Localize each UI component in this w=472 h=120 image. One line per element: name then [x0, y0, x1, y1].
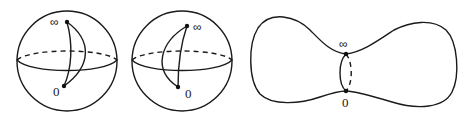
infinity-point [185, 24, 189, 28]
curve-a [178, 26, 187, 87]
sphere-outline [132, 11, 232, 111]
infinity-point [344, 52, 348, 56]
infinity-label: ∞ [339, 37, 348, 51]
zero-label: 0 [53, 84, 60, 99]
sphere-left: ∞ 0 [17, 11, 117, 111]
sphere-middle: ∞ 0 [132, 11, 232, 111]
equator-front [17, 60, 117, 71]
equator-back [132, 51, 232, 60]
infinity-point [65, 20, 69, 24]
curve-b [162, 26, 187, 87]
zero-point [176, 85, 180, 89]
infinity-label: ∞ [193, 20, 202, 34]
curve-a [64, 22, 71, 86]
zero-label: 0 [185, 86, 192, 101]
infinity-label: ∞ [50, 15, 59, 29]
sphere-outline [17, 11, 117, 111]
zero-point [62, 84, 66, 88]
equator-front [132, 60, 232, 71]
pinched-surface: ∞ 0 [251, 17, 457, 110]
equator-back [17, 51, 117, 60]
surface-outline [251, 17, 457, 107]
neck-front [340, 54, 346, 91]
zero-point [344, 89, 348, 93]
figure: ∞ 0 ∞ 0 ∞ 0 [0, 0, 472, 120]
zero-label: 0 [342, 95, 349, 110]
neck-back [346, 54, 351, 91]
